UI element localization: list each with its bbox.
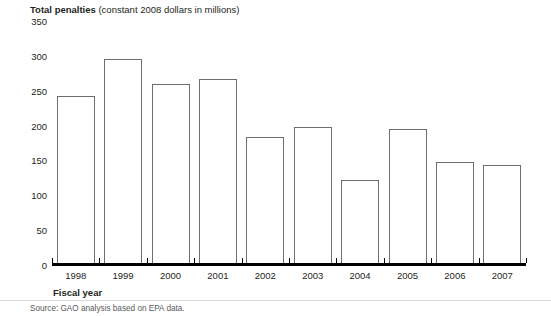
- bar-1999: [104, 59, 142, 264]
- x-axis-tick-label: 2001: [194, 270, 241, 281]
- x-axis-tick-label: 1999: [99, 270, 146, 281]
- x-axis-line: [52, 263, 526, 266]
- x-axis-tick: [147, 258, 148, 263]
- y-axis-tick-label: 150: [0, 157, 47, 167]
- bar-2000: [152, 84, 190, 264]
- x-axis-tick: [52, 258, 53, 263]
- bar-2007: [483, 165, 521, 264]
- x-axis-tick: [99, 258, 100, 263]
- x-axis-tick: [336, 258, 337, 263]
- x-axis-tick: [479, 258, 480, 263]
- x-axis-tick: [384, 258, 385, 263]
- x-axis-tick: [431, 258, 432, 263]
- footer-divider: [0, 300, 551, 301]
- bar-2002: [246, 137, 284, 264]
- x-axis-tick: [242, 258, 243, 263]
- x-axis-tick-label: 2003: [289, 270, 336, 281]
- y-axis-tick-label: 350: [0, 17, 47, 27]
- chart-title-units: (constant 2008 dollars in millions): [98, 4, 239, 15]
- y-axis-tick-label: 250: [0, 87, 47, 97]
- bar-2003: [294, 127, 332, 264]
- x-axis-title: Fiscal year: [53, 287, 102, 298]
- x-axis-tick-label: 2002: [242, 270, 289, 281]
- x-axis-tick: [526, 258, 527, 263]
- bar-1998: [57, 96, 95, 264]
- x-axis-tick-label: 2000: [147, 270, 194, 281]
- y-axis-tick-label: 0: [0, 261, 47, 271]
- x-axis-tick-label: 2007: [479, 270, 526, 281]
- y-axis-tick-label: 200: [0, 122, 47, 132]
- chart-figure: Total penalties (constant 2008 dollars i…: [0, 0, 551, 316]
- bar-series: [52, 20, 526, 264]
- chart-title-main: Total penalties: [30, 4, 96, 15]
- chart-title: Total penalties (constant 2008 dollars i…: [30, 4, 239, 16]
- plot-area: [52, 20, 526, 264]
- x-axis-tick-label: 2004: [336, 270, 383, 281]
- x-axis-tick-label: 2006: [431, 270, 478, 281]
- bar-2005: [389, 129, 427, 264]
- y-axis-tick-labels: 050100150200250300350: [0, 20, 47, 264]
- bar-2001: [199, 79, 237, 264]
- y-axis-tick-label: 100: [0, 192, 47, 202]
- x-axis-tick-label: 1998: [52, 270, 99, 281]
- x-axis-tick-labels: 1998199920002001200220032004200520062007: [52, 270, 526, 282]
- source-note: Source: GAO analysis based on EPA data.: [30, 304, 185, 314]
- y-axis-tick-label: 50: [0, 226, 47, 236]
- bar-2004: [341, 180, 379, 264]
- bar-2006: [436, 162, 474, 264]
- y-axis-tick-label: 300: [0, 52, 47, 62]
- x-axis-tick: [289, 258, 290, 263]
- x-axis-tick: [194, 258, 195, 263]
- x-axis-tick-label: 2005: [384, 270, 431, 281]
